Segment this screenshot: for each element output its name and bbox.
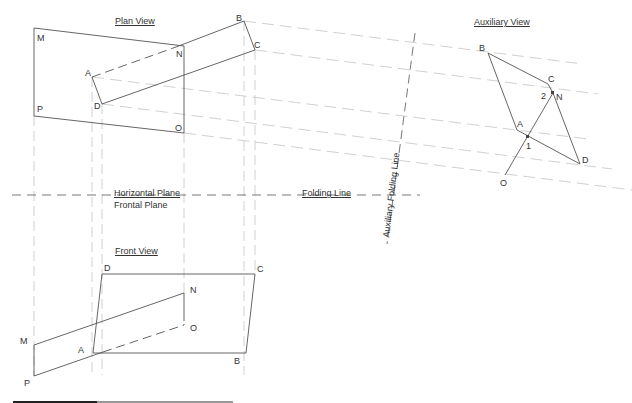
plan-label-D: D bbox=[94, 102, 101, 111]
aux-label-D: D bbox=[582, 156, 589, 165]
plan-label-N: N bbox=[176, 50, 183, 59]
aux-label-A: A bbox=[517, 120, 523, 129]
front-label-N: N bbox=[190, 286, 197, 295]
aux-label-1: 1 bbox=[526, 142, 531, 151]
aux-label-2: 2 bbox=[541, 92, 546, 101]
vertical-projection-lines bbox=[34, 21, 255, 376]
plan-label-B: B bbox=[236, 14, 242, 23]
aux-label-C: C bbox=[548, 75, 555, 84]
front-label-M: M bbox=[20, 337, 28, 346]
front-label-P: P bbox=[24, 379, 30, 388]
front-label-O: O bbox=[190, 324, 197, 333]
plan-view-planes bbox=[34, 21, 255, 133]
front-label-B: B bbox=[234, 357, 240, 366]
aux-label-O: O bbox=[500, 179, 507, 188]
front-label-A: A bbox=[78, 346, 84, 355]
plan-label-P: P bbox=[37, 105, 43, 114]
plan-label-C: C bbox=[254, 41, 261, 50]
auxiliary-projection-lines bbox=[92, 21, 632, 190]
plan-label-A: A bbox=[85, 69, 91, 78]
folding-line-label: Folding Line bbox=[302, 189, 351, 198]
front-view-title: Front View bbox=[115, 247, 158, 256]
front-label-D: D bbox=[104, 264, 111, 273]
front-label-C: C bbox=[257, 265, 264, 274]
front-view-planes bbox=[34, 274, 255, 376]
drawing-canvas bbox=[0, 0, 632, 403]
aux-label-N: N bbox=[556, 93, 563, 102]
horizontal-plane-label: Horizontal Plane bbox=[114, 189, 180, 198]
auxiliary-view-title: Auxiliary View bbox=[474, 18, 530, 27]
plan-view-title: Plan View bbox=[115, 17, 155, 26]
frontal-plane-label: Frontal Plane bbox=[114, 201, 168, 210]
plan-label-M: M bbox=[37, 34, 45, 43]
plan-label-O: O bbox=[175, 124, 182, 133]
auxiliary-view-planes bbox=[488, 53, 580, 175]
aux-label-B: B bbox=[479, 44, 485, 53]
